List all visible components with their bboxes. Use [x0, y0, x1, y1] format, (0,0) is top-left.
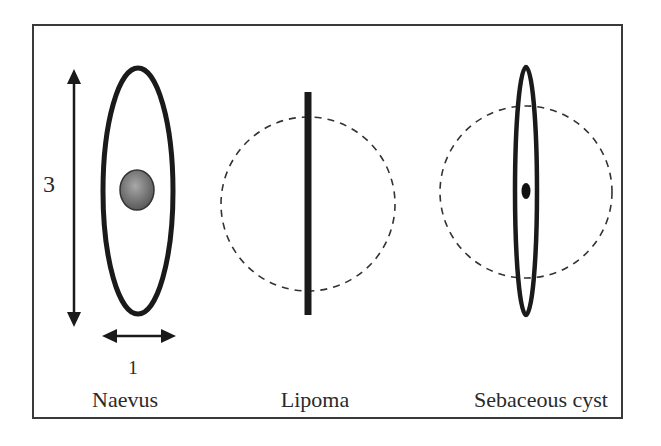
diagram-canvas — [0, 0, 661, 446]
lipoma-panel — [221, 92, 395, 315]
lipoma-caption: Lipoma — [281, 389, 349, 411]
linear-incision-icon — [305, 92, 312, 315]
length-label: 3 — [43, 172, 55, 196]
width-arrow-icon — [102, 329, 176, 343]
naevus-caption: Naevus — [92, 389, 158, 411]
sebaceous-cyst-panel — [440, 67, 612, 315]
length-arrow-icon — [67, 69, 81, 327]
naevus-panel — [67, 68, 176, 343]
sebaceous-cyst-caption: Sebaceous cyst — [474, 389, 608, 411]
width-label: 1 — [128, 358, 138, 377]
mole-lesion-icon — [120, 170, 154, 210]
punctum-icon — [522, 183, 531, 199]
